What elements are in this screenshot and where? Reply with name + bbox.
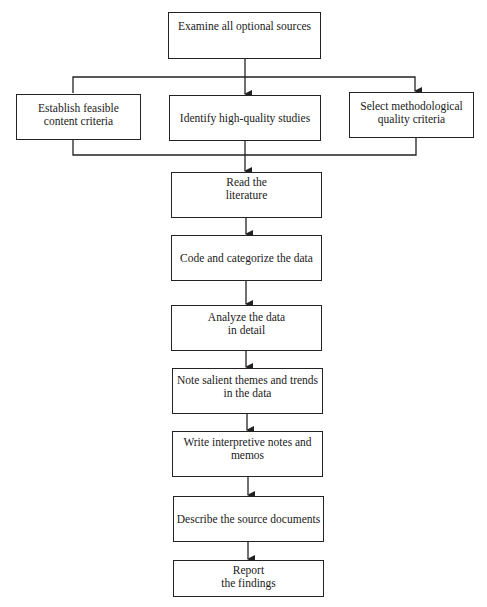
node-label: Identify high-quality studies — [180, 112, 310, 125]
node-label: Describe the source documents — [177, 513, 320, 526]
node-label: Analyze the data in detail — [172, 306, 321, 337]
node-label: Report the findings — [174, 561, 323, 590]
node-label: Examine all optional sources — [169, 13, 320, 33]
node-methodological-criteria: Select methodological quality criteria — [349, 92, 474, 138]
node-read-literature: Read the literature — [171, 172, 322, 218]
node-high-quality-studies: Identify high-quality studies — [169, 95, 321, 141]
node-label: Read the literature — [172, 173, 321, 202]
node-write-notes: Write interpretive notes and memos — [172, 431, 323, 477]
node-describe-documents: Describe the source documents — [173, 496, 324, 542]
node-label: Write interpretive notes and memos — [173, 432, 322, 462]
node-label: Select methodological quality criteria — [350, 93, 473, 126]
node-report-findings: Report the findings — [173, 560, 324, 597]
node-label: Code and categorize the data — [180, 252, 313, 265]
node-label: Note salient themes and trends in the da… — [173, 369, 322, 400]
node-content-criteria: Establish feasible content criteria — [16, 94, 141, 140]
node-examine-sources: Examine all optional sources — [168, 12, 321, 59]
node-code-categorize: Code and categorize the data — [171, 235, 322, 281]
node-label: Establish feasible content criteria — [17, 95, 140, 128]
node-note-themes: Note salient themes and trends in the da… — [172, 368, 323, 414]
node-analyze-data: Analyze the data in detail — [171, 305, 322, 351]
